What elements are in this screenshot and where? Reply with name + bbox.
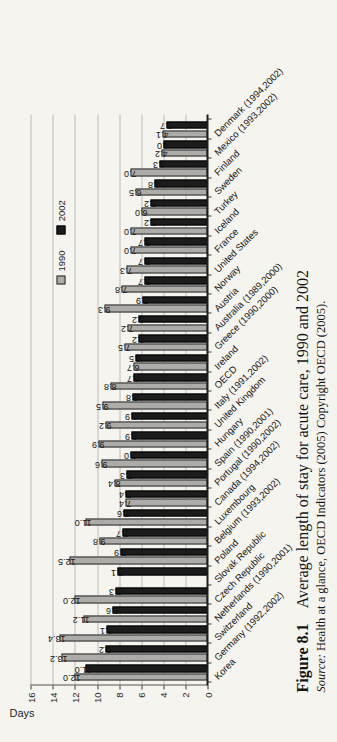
bar-1990-belgium- xyxy=(99,537,207,545)
value-label-1990-15: 8.8 xyxy=(103,381,116,390)
bar-2002-hungary xyxy=(131,431,207,439)
y-tick-label-4: 4 xyxy=(158,692,167,722)
chart-legend: 1990 2002 xyxy=(55,200,66,284)
figure-caption: Figure 8.1 Average length of stay for ac… xyxy=(293,32,327,692)
y-tick-label-14: 14 xyxy=(48,692,57,722)
value-label-2002-16: 6.5 xyxy=(129,353,142,362)
value-label-2002-1: 9.2 xyxy=(99,644,112,653)
bar-2002-switzerland xyxy=(106,625,207,633)
value-label-1990-23: 7.0 xyxy=(123,226,136,235)
y-tick-0 xyxy=(207,685,208,689)
y-tick-8 xyxy=(119,685,120,689)
value-label-2002-26: 4.3 xyxy=(153,159,166,168)
bar-1990-australia- xyxy=(127,324,207,332)
legend-swatch-2002-icon xyxy=(56,225,65,234)
bar-2002-norway xyxy=(144,276,207,284)
bar-1990-italy- xyxy=(102,401,207,409)
value-label-2002-27: 4.0 xyxy=(156,140,169,149)
bar-2002-sweden xyxy=(154,179,207,187)
bar-1990-oecd xyxy=(110,382,207,390)
y-tick-12 xyxy=(74,685,75,689)
bar-2002-australia- xyxy=(138,315,207,323)
bar-2002-canada- xyxy=(125,490,207,498)
bar-1990-hungary xyxy=(98,440,207,448)
bar-2002-finland xyxy=(159,160,207,168)
value-label-1990-25: 6.5 xyxy=(129,187,142,196)
bar-2002-czech-republic xyxy=(115,587,207,595)
bar-2002-portugal- xyxy=(126,470,207,478)
gridline-14 xyxy=(52,114,53,685)
y-tick-label-12: 12 xyxy=(70,692,79,722)
y-tick-label-0: 0 xyxy=(203,692,212,722)
bar-2002-greece- xyxy=(138,334,207,342)
bar-1990-germany- xyxy=(61,653,207,661)
y-tick-label-16: 16 xyxy=(26,692,35,722)
value-label-2002-15: 6.7 xyxy=(126,373,139,382)
rotated-bar-chart-figure: Days 024681012141612.011.0Korea13.29.2Ge… xyxy=(0,0,337,742)
bar-2002-germany- xyxy=(105,645,207,653)
bar-1990-switzerland xyxy=(59,634,207,642)
value-label-2002-22: 5.7 xyxy=(137,237,150,246)
bar-2002-korea xyxy=(85,664,207,672)
value-label-2002-0: 11.0 xyxy=(75,664,92,673)
value-label-1990-13: 9.2 xyxy=(99,420,112,429)
y-tick-label-2: 2 xyxy=(180,692,189,722)
value-label-2002-7: 7.7 xyxy=(115,528,128,537)
bar-1990-united-kingdom xyxy=(105,421,207,429)
bar-1990-netherlands- xyxy=(83,615,207,623)
bar-2002-netherlands- xyxy=(112,606,207,614)
source-prefix: Source: xyxy=(313,654,327,692)
value-label-2002-6: 7.9 xyxy=(113,547,126,556)
figure-number: Figure 8.1 xyxy=(293,623,310,692)
value-label-1990-21: 7.3 xyxy=(120,265,133,274)
value-label-1990-17: 7.5 xyxy=(118,343,131,352)
figure-caption-title-line: Figure 8.1 Average length of stay for ac… xyxy=(293,32,311,692)
value-label-1990-8: 11.0 xyxy=(75,517,92,526)
value-label-1990-1: 13.2 xyxy=(50,653,68,662)
value-label-1990-19: 9.3 xyxy=(98,304,111,313)
value-label-2002-24: 5.2 xyxy=(143,198,156,207)
value-label-2002-2: 9.1 xyxy=(100,625,113,634)
value-label-2002-10: 7.3 xyxy=(120,470,133,479)
y-axis-line xyxy=(30,684,207,685)
bar-2002-turkey xyxy=(150,199,207,207)
y-tick-6 xyxy=(141,685,142,689)
value-label-1990-11: 9.6 xyxy=(94,459,107,468)
value-label-2002-21: 5.7 xyxy=(137,256,150,265)
value-label-2002-23: 5.2 xyxy=(143,218,156,227)
value-label-1990-14: 9.5 xyxy=(96,401,109,410)
bar-2002-italy- xyxy=(132,393,207,401)
bar-2002-poland xyxy=(120,548,207,556)
legend-item-2002: 2002 xyxy=(55,200,66,234)
y-tick-label-6: 6 xyxy=(136,692,145,722)
bar-2002-luxembourg xyxy=(123,509,207,517)
value-label-2002-13: 6.9 xyxy=(124,412,137,421)
value-label-1990-7: 9.8 xyxy=(92,537,105,546)
value-label-1990-6: 12.5 xyxy=(57,556,75,565)
y-tick-14 xyxy=(52,685,53,689)
bar-2002-united-states xyxy=(144,257,207,265)
bar-1990-korea xyxy=(74,673,207,681)
value-label-2002-4: 8.3 xyxy=(109,586,122,595)
value-label-1990-12: 9.9 xyxy=(91,440,104,449)
bar-2002-austria xyxy=(142,296,207,304)
y-tick-2 xyxy=(185,685,186,689)
value-label-2002-17: 6.2 xyxy=(132,334,145,343)
bar-2002-belgium- xyxy=(122,528,207,536)
bar-2002-iceland xyxy=(150,218,207,226)
value-label-1990-26: 7.0 xyxy=(123,168,136,177)
bar-2002-oecd xyxy=(133,373,207,381)
value-label-2002-28: 3.7 xyxy=(160,121,173,130)
bar-2002-france xyxy=(144,237,207,245)
bar-1990-finland xyxy=(130,168,207,176)
legend-label-1990: 1990 xyxy=(55,250,66,271)
gridline-16 xyxy=(30,114,31,685)
y-tick-label-10: 10 xyxy=(92,692,101,722)
bar-1990-sweden xyxy=(135,188,207,196)
bar-2002-spain- xyxy=(130,451,207,459)
figure-caption-source-line: Source: Health at a glance, OECD Indicat… xyxy=(313,32,327,692)
y-tick-10 xyxy=(97,685,98,689)
source-text: Health at a glance, OECD Indicators (200… xyxy=(313,300,327,650)
value-label-2002-9: 7.4 xyxy=(119,489,132,498)
value-label-2002-20: 5.7 xyxy=(137,276,150,285)
